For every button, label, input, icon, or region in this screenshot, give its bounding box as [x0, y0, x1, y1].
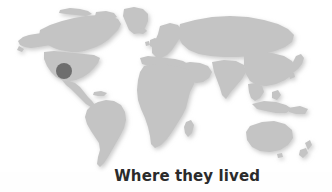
- range-marker-circle[interactable]: [56, 63, 72, 79]
- world-map-graphic: [0, 0, 332, 172]
- figure-caption: Where they lived: [0, 166, 260, 186]
- map-container: [0, 0, 332, 172]
- world-map-figure: Where they lived: [0, 0, 332, 192]
